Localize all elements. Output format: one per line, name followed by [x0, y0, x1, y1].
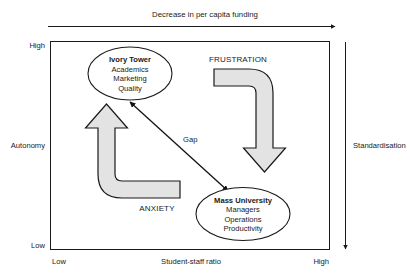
bottom-axis-low-label: Low: [52, 257, 66, 266]
left-axis-low-label: Low: [31, 241, 45, 250]
right-axis-name: Standardisation: [353, 141, 406, 150]
bottom-axis-name: Student-staff ratio: [161, 257, 221, 266]
bottom-axis-high-label: High: [313, 257, 329, 266]
left-axis-name: Autonomy: [11, 141, 45, 150]
mass-university-title: Mass University: [214, 196, 273, 205]
gap-connector-label: Gap: [183, 135, 197, 144]
mass-university-item-1: Managers: [226, 205, 260, 214]
ivory-tower-item-1: Academics: [111, 65, 148, 74]
mass-university-item-2: Operations: [224, 215, 261, 224]
ivory-tower-title: Ivory Tower: [109, 55, 151, 64]
conceptual-diagram: Decrease in per capita funding High Auto…: [0, 0, 410, 279]
ivory-tower-item-3: Quality: [118, 84, 142, 93]
left-axis-high-label: High: [29, 41, 45, 50]
top-axis-label: Decrease in per capita funding: [152, 10, 258, 19]
anxiety-flow-label: ANXIETY: [139, 204, 175, 213]
diagram-canvas: Decrease in per capita funding High Auto…: [0, 0, 410, 279]
node-ivory-tower[interactable]: Ivory Tower Academics Marketing Quality: [88, 47, 172, 100]
mass-university-item-3: Productivity: [223, 224, 262, 233]
node-mass-university[interactable]: Mass University Managers Operations Prod…: [196, 188, 290, 241]
frustration-flow-label: FRUSTRATION: [209, 55, 267, 64]
ivory-tower-item-2: Marketing: [113, 74, 146, 83]
